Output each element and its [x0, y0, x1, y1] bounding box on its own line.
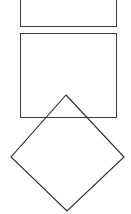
figure-canvas	[0, 0, 131, 214]
shape-rectangle-top	[20, 0, 116, 26]
shape-rectangle-main	[20, 33, 116, 117]
shape-diamond	[11, 95, 124, 211]
shapes-svg	[0, 0, 131, 214]
